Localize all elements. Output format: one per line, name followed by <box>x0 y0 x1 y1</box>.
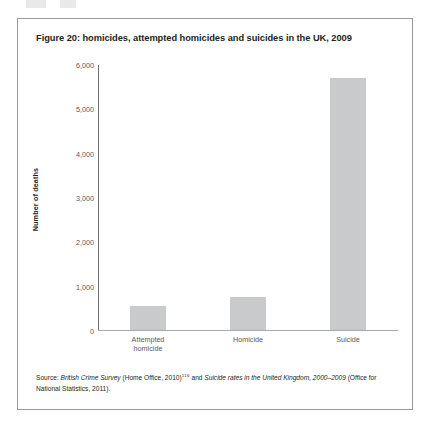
x-axis-category-labels: AttemptedhomicideHomicideSuicide <box>98 335 398 365</box>
y-axis-tick-label: 2,000 <box>48 238 94 247</box>
bar-series <box>98 65 398 330</box>
x-axis-category-label: Suicide <box>298 335 398 344</box>
y-axis-tick-label: 6,000 <box>48 61 94 70</box>
y-axis-tick-label: 3,000 <box>48 194 94 203</box>
page-root: Figure 20: homicides, attempted homicide… <box>0 0 431 435</box>
figure-title: Figure 20: homicides, attempted homicide… <box>36 32 396 46</box>
chart-plot-area: Number of deaths 01,0002,0003,0004,0005,… <box>18 65 412 355</box>
y-axis-tick-labels: 01,0002,0003,0004,0005,0006,000 <box>48 65 94 331</box>
y-axis-tick-label: 4,000 <box>48 149 94 158</box>
bar-homicide[interactable] <box>230 297 266 330</box>
source-lead: Source: <box>36 374 61 381</box>
bar-slot <box>98 65 198 330</box>
y-axis-tick-label: 5,000 <box>48 105 94 114</box>
x-axis-line <box>98 330 398 331</box>
chart-axes <box>98 65 398 331</box>
y-axis-tick-label: 0 <box>48 327 94 336</box>
source-footnote-marker: 116 <box>182 373 190 378</box>
bar-attempted-homicide[interactable] <box>130 306 166 330</box>
x-axis-category-label: Attemptedhomicide <box>98 335 198 353</box>
bar-suicide[interactable] <box>330 78 366 330</box>
scan-artifact <box>26 0 46 8</box>
y-axis-title: Number of deaths <box>31 135 40 265</box>
source-title-2: Suicide rates in the United Kingdom, 200… <box>204 374 346 381</box>
y-axis-tick-label: 1,000 <box>48 282 94 291</box>
source-text-1: (Home Office, 2010) <box>121 374 182 381</box>
scan-artifact <box>60 0 76 8</box>
x-axis-category-label: Homicide <box>198 335 298 344</box>
source-note: Source: British Crime Survey (Home Offic… <box>36 371 398 394</box>
bar-slot <box>298 65 398 330</box>
figure-container: Figure 20: homicides, attempted homicide… <box>17 18 413 410</box>
source-title-1: British Crime Survey <box>61 374 121 381</box>
source-text-2: and <box>190 374 205 381</box>
bar-slot <box>198 65 298 330</box>
